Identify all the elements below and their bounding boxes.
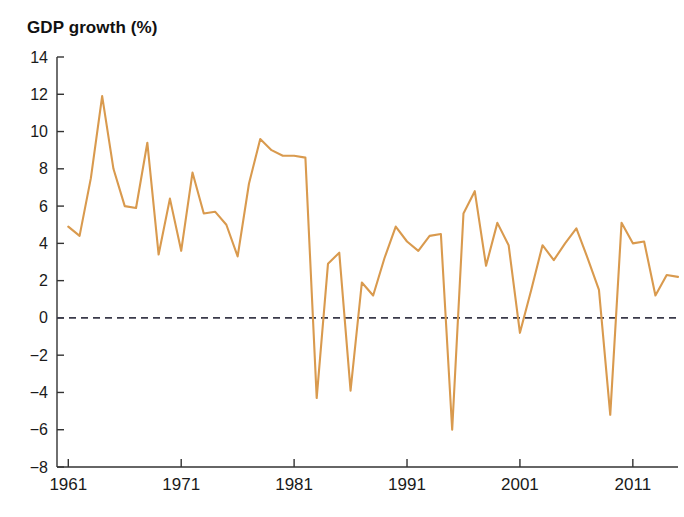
y-axis-tick-label: 14 (30, 49, 48, 66)
y-axis-tick-label: −4 (30, 384, 48, 401)
y-axis-tick-label: 12 (30, 86, 48, 103)
x-axis-tick-label: 2011 (615, 475, 652, 494)
y-axis-tick-label: −6 (30, 421, 48, 438)
y-axis-tick-label: −2 (30, 347, 48, 364)
x-axis-tick-label: 1971 (162, 475, 200, 494)
y-axis-tick-label: 10 (30, 123, 48, 140)
y-axis-tick-label: 2 (39, 272, 48, 289)
x-axis-tick-label: 1991 (388, 475, 426, 494)
gdp-growth-chart: GDP growth (%) 14121086420−2−4−6−8196119… (0, 0, 684, 517)
y-axis-tick-label: −8 (30, 459, 48, 476)
y-axis-tick-label: 6 (39, 198, 48, 215)
y-axis-tick-label: 0 (39, 309, 48, 326)
y-axis-tick-label: 8 (39, 160, 48, 177)
data-line-1 (68, 96, 678, 430)
y-axis-tick-label: 4 (39, 235, 48, 252)
chart-plot-area: 14121086420−2−4−6−8196119711981199120012… (0, 0, 684, 517)
x-axis-tick-label: 2001 (501, 475, 539, 494)
x-axis-tick-label: 1981 (275, 475, 313, 494)
x-axis-tick-label: 1961 (49, 475, 87, 494)
